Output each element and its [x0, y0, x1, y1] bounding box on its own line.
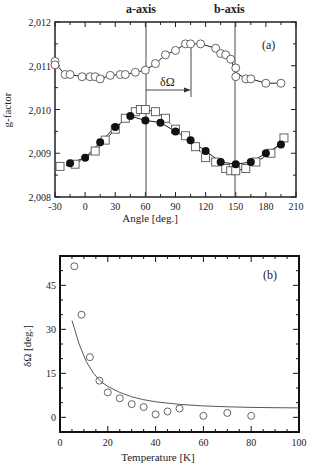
open-square-point	[91, 147, 99, 155]
x-tick-label: 40	[151, 437, 161, 448]
open-circle-point	[176, 405, 183, 412]
filled-circle-point	[66, 159, 74, 167]
open-circle-point	[197, 40, 205, 48]
panel-a-label: (a)	[262, 38, 275, 52]
y-tick-label: 2,010	[29, 105, 52, 116]
open-circle-point	[200, 412, 207, 419]
open-square-point	[192, 143, 200, 151]
open-circle-point	[96, 75, 104, 83]
filled-circle-point	[232, 160, 240, 168]
panel-b-y-ticks: 0153045	[46, 271, 299, 424]
panel-b-y-axis-title: δΩ [deg.]	[21, 325, 33, 367]
panel-b-x-ticks: 020406080100	[58, 256, 307, 448]
x-tick-label: 60	[140, 201, 150, 212]
panel-a-y-axis-title: g-factor	[1, 92, 13, 127]
open-circle-point	[78, 311, 85, 318]
filled-circle-point	[217, 158, 225, 166]
y-tick-label: 15	[46, 368, 56, 379]
open-circle-point	[96, 377, 103, 384]
open-circle-point	[187, 40, 195, 48]
open-circle-point	[71, 263, 78, 270]
panel-a-fit-curves	[55, 44, 284, 171]
y-tick-label: 30	[46, 324, 56, 335]
open-circle-point	[128, 401, 135, 408]
x-tick-label: 20	[103, 437, 113, 448]
open-circle-point	[232, 73, 240, 81]
a-axis-label: a-axis	[126, 2, 156, 16]
panel-a-chart: -300306090120150180210 2,0082,0092,0102,…	[1, 2, 304, 224]
x-tick-label: 150	[228, 201, 243, 212]
open-circle-point	[151, 60, 159, 68]
y-tick-label: 2,008	[29, 192, 52, 203]
open-circle-point	[131, 68, 139, 76]
open-circle-point	[141, 66, 149, 74]
open-circle-point	[172, 46, 180, 54]
fit-curve	[72, 321, 299, 408]
filled-circle-point	[172, 127, 180, 135]
open-circle-point	[116, 395, 123, 402]
x-tick-label: 100	[292, 437, 307, 448]
x-tick-label: 120	[198, 201, 213, 212]
figure: -300306090120150180210 2,0082,0092,0102,…	[0, 0, 320, 471]
y-tick-label: 2,012	[29, 17, 52, 28]
filled-circle-point	[156, 119, 164, 127]
filled-circle-point	[277, 141, 285, 149]
open-square-point	[141, 106, 149, 114]
panel-a-y-ticks: 2,0082,0092,0102,0112,012	[29, 17, 297, 203]
open-circle-point	[86, 354, 93, 361]
open-circle-point	[247, 75, 255, 83]
filled-circle-point	[111, 123, 119, 131]
filled-circle-point	[202, 147, 210, 155]
open-circle-point	[248, 412, 255, 419]
filled-circle-point	[141, 116, 149, 124]
filled-circle-point	[81, 154, 89, 162]
panel-b-fit-curve	[72, 321, 299, 408]
x-tick-label: 0	[58, 437, 63, 448]
delta-omega-label: δΩ	[160, 75, 175, 89]
y-tick-label: 2,011	[29, 61, 51, 72]
open-circle-point	[262, 79, 270, 87]
x-tick-label: 30	[110, 201, 120, 212]
panel-b-data-points	[71, 263, 255, 420]
open-circle-point	[104, 389, 111, 396]
open-circle-point	[161, 51, 169, 59]
open-square-point	[56, 162, 64, 170]
x-tick-label: 60	[198, 437, 208, 448]
open-circle-point	[277, 79, 285, 87]
open-circle-point	[164, 408, 171, 415]
panel-b-label: (b)	[263, 268, 277, 282]
panel-b-chart: 020406080100 0153045 (b) Temperature [K]…	[21, 256, 307, 463]
open-circle-point	[140, 404, 147, 411]
open-circle-point	[78, 73, 86, 81]
x-tick-label: 0	[83, 201, 88, 212]
open-circle-point	[66, 71, 74, 79]
filled-circle-point	[247, 158, 255, 166]
open-circle-point	[232, 64, 240, 72]
x-tick-label: 180	[258, 201, 273, 212]
open-circle-point	[227, 55, 235, 63]
x-tick-label: 80	[246, 437, 256, 448]
open-circle-point	[51, 61, 59, 69]
open-circle-point	[106, 71, 114, 79]
b-axis-label: b-axis	[214, 2, 245, 16]
panel-b-x-axis-title: Temperature [K]	[121, 451, 194, 463]
filled-circle-point	[96, 138, 104, 146]
x-tick-label: 210	[289, 201, 304, 212]
open-circle-point	[121, 71, 129, 79]
filled-circle-point	[187, 136, 195, 144]
open-square-point	[151, 108, 159, 116]
y-tick-label: 2,009	[29, 148, 52, 159]
arrowhead-icon	[184, 88, 191, 93]
x-tick-label: 90	[171, 201, 181, 212]
panel-b-frame	[60, 256, 299, 432]
panel-a-data-points	[51, 40, 288, 175]
y-tick-label: 0	[51, 412, 56, 423]
open-circle-point	[152, 411, 159, 418]
open-square-point	[242, 165, 250, 173]
panel-a-x-axis-title: Angle [deg.]	[122, 212, 178, 224]
open-circle-point	[224, 409, 231, 416]
filled-circle-point	[262, 149, 270, 157]
y-tick-label: 45	[46, 280, 56, 291]
filled-circle-point	[126, 112, 134, 120]
